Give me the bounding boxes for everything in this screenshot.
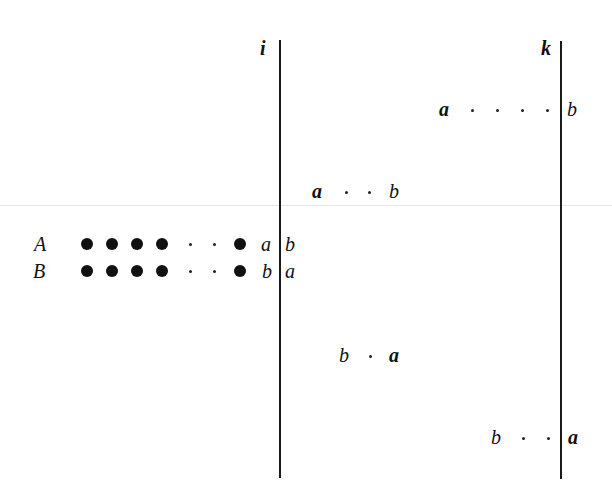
filled-dot xyxy=(81,265,93,277)
filled-dot xyxy=(81,238,93,250)
segment-left-symbol: a xyxy=(312,181,322,201)
ellipsis-dot xyxy=(521,109,524,112)
ellipsis-dot xyxy=(189,243,192,246)
filled-dot xyxy=(106,238,118,250)
row-label: A xyxy=(34,234,46,254)
column-line-i xyxy=(279,40,281,478)
segment-left-symbol: b xyxy=(491,427,501,447)
segment-left-symbol: a xyxy=(439,99,449,119)
ellipsis-dot xyxy=(547,437,550,440)
filled-dot xyxy=(234,238,246,250)
column-label-i: i xyxy=(260,38,266,58)
ellipsis-dot xyxy=(213,243,216,246)
row-right-symbol: b xyxy=(285,234,295,254)
filled-dot xyxy=(156,265,168,277)
segment-right-symbol: b xyxy=(389,181,399,201)
filled-dot xyxy=(131,238,143,250)
ellipsis-dot xyxy=(368,191,371,194)
ellipsis-dot xyxy=(546,109,549,112)
diagram: i k a b a b A a b B xyxy=(0,0,612,496)
row-last-symbol: a xyxy=(261,234,271,254)
segment-left-symbol: b xyxy=(339,345,349,365)
ellipsis-dot xyxy=(213,270,216,273)
ellipsis-dot xyxy=(522,437,525,440)
ellipsis-dot xyxy=(471,109,474,112)
segment-right-symbol: a xyxy=(568,427,578,447)
ellipsis-dot xyxy=(189,270,192,273)
segment-right-symbol: a xyxy=(389,345,399,365)
ellipsis-dot xyxy=(369,355,372,358)
row-label: B xyxy=(33,261,45,281)
filled-dot xyxy=(106,265,118,277)
row-last-symbol: b xyxy=(262,261,272,281)
filled-dot xyxy=(234,265,246,277)
column-label-k: k xyxy=(541,38,551,58)
filled-dot xyxy=(156,238,168,250)
ellipsis-dot xyxy=(345,191,348,194)
column-line-k xyxy=(560,41,562,479)
segment-right-symbol: b xyxy=(567,99,577,119)
ellipsis-dot xyxy=(496,109,499,112)
scan-artifact-line xyxy=(0,205,612,206)
row-right-symbol: a xyxy=(285,261,295,281)
filled-dot xyxy=(131,265,143,277)
